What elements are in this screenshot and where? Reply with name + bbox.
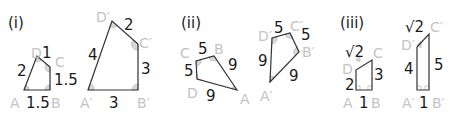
part-i-small-quad: A B C D 1.5 1.5 1 2 bbox=[10, 44, 78, 112]
side-da: 4 bbox=[404, 60, 414, 78]
side-da: 2 bbox=[345, 76, 355, 94]
vertex-a-prime: A′ bbox=[402, 95, 415, 111]
side-da: 9 bbox=[206, 87, 216, 105]
vertex-c: C bbox=[180, 45, 190, 61]
side-da: 2 bbox=[17, 62, 27, 80]
part-label: (ii) bbox=[181, 14, 201, 32]
vertex-a-prime: A′ bbox=[260, 88, 273, 104]
quadrilateral-a-prime-b-prime-c-prime-d-prime bbox=[417, 34, 429, 90]
side-cd: 5 bbox=[184, 62, 194, 80]
vertex-c: C bbox=[373, 45, 383, 61]
side-da: 9 bbox=[258, 52, 268, 70]
side-ab: 1 bbox=[419, 94, 429, 112]
vertex-b: B bbox=[214, 41, 224, 57]
side-ab: 3 bbox=[109, 94, 119, 112]
vertex-b-prime: B′ bbox=[432, 95, 445, 111]
part-i: (i) A B C D 1.5 1.5 1 2 A′ B′ C′ bbox=[8, 9, 152, 112]
part-label: (iii) bbox=[340, 14, 364, 32]
side-bc: 5 bbox=[434, 56, 444, 74]
vertex-b: B bbox=[51, 95, 61, 111]
side-bc: 1.5 bbox=[54, 71, 78, 89]
angle-mark bbox=[132, 84, 138, 90]
side-bc: 5 bbox=[198, 40, 208, 58]
side-bc: 5 bbox=[301, 26, 311, 44]
part-ii: (ii) A B C D 9 5 5 9 A′ B′ C′ D bbox=[180, 14, 315, 107]
vertex-d-prime: D′ bbox=[96, 9, 110, 25]
vertex-c-prime: C′ bbox=[139, 35, 152, 51]
side-ab: 9 bbox=[228, 56, 238, 74]
part-label: (i) bbox=[8, 14, 24, 32]
vertex-b-prime: B′ bbox=[302, 44, 315, 60]
vertex-b-prime: B′ bbox=[137, 95, 150, 111]
vertex-d: D bbox=[31, 45, 42, 61]
quadrilateral-abcd bbox=[356, 60, 372, 90]
side-cd: 1 bbox=[42, 44, 52, 62]
vertex-d: D bbox=[342, 61, 353, 77]
vertex-a: A bbox=[240, 91, 250, 107]
part-ii-large-quad: A′ B′ C′ D′ 9 5 5 9 bbox=[258, 18, 315, 104]
vertex-a-prime: A′ bbox=[80, 95, 93, 111]
vertex-c: C bbox=[55, 54, 65, 70]
side-da: 4 bbox=[88, 46, 98, 64]
side-ab: 1.5 bbox=[26, 94, 50, 112]
side-bc: 3 bbox=[374, 66, 384, 84]
side-cd: √2 bbox=[345, 43, 364, 61]
vertex-a: A bbox=[343, 95, 353, 111]
side-cd: 2 bbox=[124, 16, 134, 34]
side-ab: 1 bbox=[359, 94, 369, 112]
vertex-c-prime: C′ bbox=[430, 19, 443, 35]
vertex-d-prime: D′ bbox=[258, 28, 272, 44]
part-i-large-quad: A′ B′ C′ D′ 3 3 2 4 bbox=[80, 9, 152, 112]
quadrilaterals-diagram: (i) A B C D 1.5 1.5 1 2 A′ B′ C′ bbox=[0, 0, 461, 115]
part-ii-small-quad: A B C D 9 5 5 9 bbox=[180, 40, 250, 107]
side-cd: √2 bbox=[405, 18, 424, 36]
part-iii: (iii) A B C D 1 3 √2 2 A′ B′ C′ D′ 1 bbox=[340, 14, 445, 112]
vertex-a: A bbox=[10, 95, 20, 111]
part-iii-large-quad: A′ B′ C′ D′ 1 5 √2 4 bbox=[401, 18, 445, 112]
side-bc: 3 bbox=[141, 60, 151, 78]
vertex-d-prime: D′ bbox=[401, 37, 415, 53]
angle-mark bbox=[45, 85, 50, 90]
side-ab: 9 bbox=[289, 67, 299, 85]
part-iii-small-quad: A B C D 1 3 √2 2 bbox=[342, 43, 384, 112]
vertex-d: D bbox=[187, 85, 198, 101]
side-cd: 5 bbox=[274, 19, 284, 37]
vertex-b: B bbox=[371, 95, 381, 111]
